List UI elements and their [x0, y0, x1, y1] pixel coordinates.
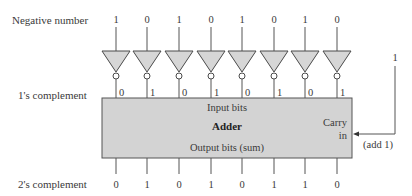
negative-bit-6: 1 — [302, 14, 307, 25]
twos-complement-bit-1: 1 — [144, 179, 149, 190]
row-label-twos-complement: 2's complement — [18, 178, 87, 190]
twos-complement-diagram: Negative number 1's complement 2's compl… — [0, 0, 412, 196]
carry-note: (add 1) — [363, 139, 394, 151]
negative-bit-4: 1 — [239, 14, 244, 25]
negative-bit-1: 0 — [144, 14, 149, 25]
row-label-ones-complement: 1's complement — [18, 89, 87, 101]
twos-complement-bit-7: 0 — [334, 179, 339, 190]
inverter-gate-icon — [291, 51, 319, 72]
negative-bit-3: 0 — [208, 14, 213, 25]
inverter-gate-icon — [133, 51, 161, 72]
twos-complement-bit-4: 0 — [239, 179, 244, 190]
inverter-gate-icon — [197, 51, 225, 72]
inverter-gate-icon — [228, 51, 256, 72]
inverter-gate-icon — [165, 51, 193, 72]
carry-line — [357, 66, 395, 134]
inverter-gate-icon — [323, 51, 351, 72]
twos-complement-bit-6: 1 — [302, 179, 307, 190]
twos-complement-bit-5: 1 — [271, 179, 276, 190]
adder-output-label: Output bits (sum) — [190, 142, 265, 154]
ones-complement-bit-4: 0 — [245, 87, 250, 98]
ones-complement-bit-6: 0 — [308, 87, 313, 98]
inverter-gate-icon — [260, 51, 288, 72]
ones-complement-bit-3: 1 — [214, 87, 219, 98]
row-label-negative: Negative number — [12, 14, 88, 26]
ones-complement-bit-2: 0 — [182, 87, 187, 98]
ones-complement-bit-1: 1 — [150, 87, 155, 98]
negative-bit-7: 0 — [334, 14, 339, 25]
twos-complement-bit-3: 1 — [208, 179, 213, 190]
carry-label-line2: in — [339, 130, 348, 141]
ones-complement-bit-0: 0 — [119, 87, 124, 98]
negative-bit-5: 0 — [271, 14, 276, 25]
ones-complement-bit-5: 1 — [277, 87, 282, 98]
adder-input-label: Input bits — [207, 102, 247, 113]
negative-bit-2: 1 — [176, 14, 181, 25]
carry-input-value: 1 — [392, 52, 397, 63]
negative-bit-0: 1 — [113, 14, 118, 25]
twos-complement-bit-2: 0 — [176, 179, 181, 190]
carry-label-line1: Carry — [323, 117, 348, 128]
adder-title: Adder — [212, 120, 242, 132]
inverter-gate-icon — [102, 51, 130, 72]
carry-arrow-icon — [353, 132, 359, 137]
ones-complement-bit-7: 1 — [340, 87, 345, 98]
twos-complement-bit-0: 0 — [113, 179, 118, 190]
